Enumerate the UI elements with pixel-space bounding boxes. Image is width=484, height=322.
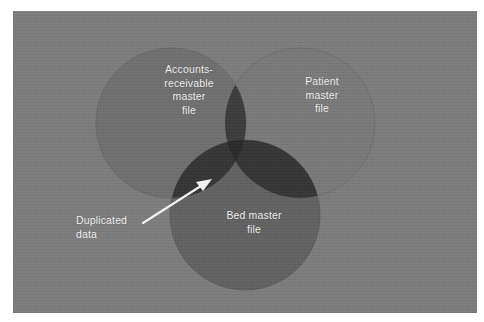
venn-diagram-svg xyxy=(13,11,477,313)
diagram-panel: Accounts- receivable master file Patient… xyxy=(13,11,477,313)
figure-root: Accounts- receivable master file Patient… xyxy=(0,0,484,322)
